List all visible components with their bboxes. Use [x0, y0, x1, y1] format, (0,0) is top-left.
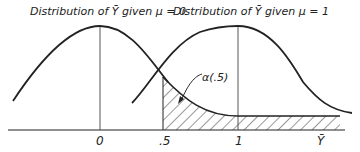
distribution-diagram: Distribution of Ȳ given μ = 0 Distributi… [0, 0, 360, 152]
tick-1: 1 [235, 134, 243, 148]
tick-05: .5 [159, 134, 170, 148]
left-title: Distribution of Ȳ given μ = 0 [30, 5, 186, 18]
alpha-label: α(.5) [202, 71, 228, 84]
right-title: Distribution of Ȳ given μ = 1 [173, 5, 329, 18]
x-axis-label: Ȳ [317, 134, 326, 148]
curve-mu-0 [13, 26, 168, 101]
tick-0: 0 [96, 134, 104, 148]
